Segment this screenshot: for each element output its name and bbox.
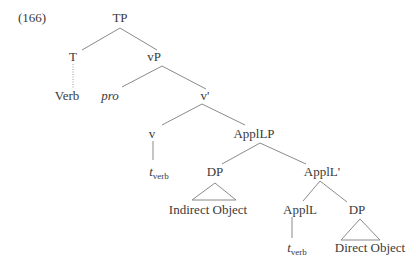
edge-vbar-appllp (202, 104, 245, 125)
edge-tp-vp (120, 28, 157, 50)
node-tp: TP (112, 11, 127, 25)
node-appll: ApplL (283, 203, 317, 217)
edge-appllbar-appll (303, 181, 320, 201)
node-indirect-object: Indirect Object (169, 203, 247, 217)
node-v-bar: v' (201, 89, 210, 103)
trace-subscript: verb (153, 171, 169, 181)
node-dp-direct: DP (349, 203, 366, 217)
edge-appllp-appllbar (260, 143, 306, 164)
trace-subscript: verb (291, 247, 307, 257)
syntax-tree-edges (0, 0, 416, 271)
edge-appllp-dp (222, 143, 260, 164)
edge-appllbar-dp (320, 181, 347, 202)
node-direct-object: Direct Object (335, 241, 405, 255)
triangle-indirect-object (192, 183, 236, 200)
node-verb: Verb (55, 89, 80, 103)
node-appllp: ApplLP (233, 127, 274, 141)
node-vp: vP (147, 50, 161, 64)
node-t-verb-1: tverb (149, 165, 169, 183)
node-appll-bar: ApplL' (304, 165, 340, 179)
node-t-verb-2: tverb (287, 241, 307, 259)
node-t: T (69, 50, 77, 64)
node-v: v (149, 127, 156, 141)
node-dp-indirect: DP (207, 165, 224, 179)
node-pro: pro (101, 89, 119, 103)
triangle-direct-object (341, 219, 380, 240)
edge-vp-vbar (162, 66, 206, 89)
edge-vp-pro (122, 66, 162, 87)
edge-tp-t (82, 28, 120, 50)
edge-vbar-v (162, 104, 202, 125)
